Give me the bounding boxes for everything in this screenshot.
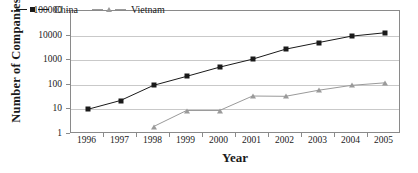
x-axis-tick-mark: [202, 133, 203, 137]
legend-line-icon: [92, 9, 103, 10]
x-axis-tick-label: 2004: [341, 135, 360, 145]
data-point-china: [118, 98, 123, 103]
series-line-china: [88, 33, 385, 110]
x-axis-tick-mark: [334, 133, 335, 137]
y-axis-tick-labels: 110100100010000100000: [0, 10, 66, 133]
y-axis-tick-label: 10: [53, 103, 63, 113]
x-axis-tick-label: 2000: [209, 135, 228, 145]
x-axis-tick-mark: [136, 133, 137, 137]
legend-triangle-marker-icon: [106, 7, 112, 12]
data-point-china: [283, 47, 288, 52]
y-axis-tick-label: 1000: [43, 54, 62, 64]
series-lines: [71, 11, 401, 134]
legend-item-china: China: [16, 4, 78, 15]
x-axis-tick-mark: [367, 133, 368, 137]
data-point-vietnam: [382, 80, 388, 85]
data-point-china: [151, 83, 156, 88]
data-point-vietnam: [283, 94, 289, 99]
data-point-china: [250, 57, 255, 62]
chart-figure: Number of Companies 11010010001000010000…: [0, 0, 418, 173]
legend-line-icon: [115, 9, 126, 10]
data-point-vietnam: [184, 108, 190, 113]
data-point-vietnam: [151, 124, 157, 129]
plot-area: [70, 10, 400, 133]
data-point-china: [349, 34, 354, 39]
x-axis-tick-mark: [103, 133, 104, 137]
data-point-china: [316, 40, 321, 45]
data-point-china: [217, 65, 222, 70]
data-point-vietnam: [316, 88, 322, 93]
y-axis-tick-label: 10000: [38, 30, 62, 40]
data-point-vietnam: [349, 83, 355, 88]
x-axis-title: Year: [70, 150, 400, 166]
legend-item-vietnam: Vietnam: [92, 4, 165, 15]
x-axis-tick-mark: [235, 133, 236, 137]
series-line-vietnam: [154, 83, 385, 127]
y-axis-tick-mark: [66, 133, 70, 134]
x-axis-tick-label: 2003: [308, 135, 327, 145]
data-point-china: [382, 30, 387, 35]
legend-square-marker-icon: [30, 7, 35, 12]
x-axis-tick-mark: [268, 133, 269, 137]
data-point-china: [184, 74, 189, 79]
x-axis-tick-labels: 1996199719981999200020012002200320042005: [70, 135, 400, 149]
x-axis-tick-mark: [301, 133, 302, 137]
x-axis-tick-mark: [169, 133, 170, 137]
x-axis-tick-label: 1998: [143, 135, 162, 145]
y-axis-tick-label: 1: [57, 128, 62, 138]
legend-line-icon: [16, 9, 27, 10]
x-axis-tick-label: 1997: [110, 135, 129, 145]
data-point-vietnam: [217, 108, 223, 113]
x-axis-tick-label: 2001: [242, 135, 261, 145]
chart-legend: ChinaVietnam: [16, 4, 165, 15]
legend-label: China: [52, 4, 78, 15]
data-point-vietnam: [250, 94, 256, 99]
data-point-china: [85, 107, 90, 112]
x-axis-tick-label: 1999: [176, 135, 195, 145]
legend-line-icon: [38, 9, 49, 10]
x-axis-tick-label: 1996: [77, 135, 96, 145]
x-axis-tick-label: 2002: [275, 135, 294, 145]
x-axis-tick-label: 2005: [374, 135, 393, 145]
legend-label: Vietnam: [129, 4, 165, 15]
y-axis-tick-label: 100: [48, 79, 62, 89]
